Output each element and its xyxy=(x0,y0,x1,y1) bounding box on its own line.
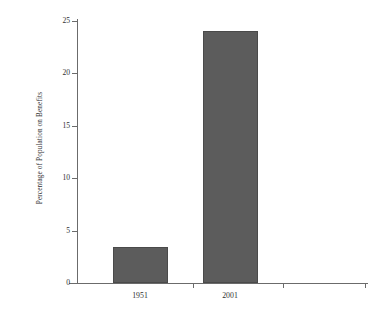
y-tick-label-text: 5 xyxy=(30,227,70,235)
bar-1951 xyxy=(113,247,168,283)
x-tick-label-2001: 2001 xyxy=(200,291,260,301)
x-tick-mark xyxy=(193,284,194,288)
y-tick-label: 10 xyxy=(26,174,70,182)
y-tick-mark xyxy=(72,283,78,284)
y-tick-label: 15 xyxy=(26,122,70,130)
y-tick-label: 5 xyxy=(26,227,70,235)
y-tick-label-text: 25 xyxy=(30,17,70,25)
x-tick-mark xyxy=(283,284,284,288)
bar-2001 xyxy=(203,31,258,283)
y-tick-label: 20 xyxy=(26,69,70,77)
x-axis-line xyxy=(69,283,368,284)
y-tick-label-text: 0 xyxy=(30,279,70,287)
x-axis-end-tick xyxy=(365,284,366,288)
y-tick-label-text: 15 xyxy=(30,122,70,130)
bar-chart: Percentage of Population on Benefits 051… xyxy=(0,0,382,319)
y-tick-label: 0 xyxy=(26,279,70,287)
x-tick-label-1951: 1951 xyxy=(110,291,170,301)
plot-area xyxy=(77,21,368,283)
y-axis-title: Percentage of Population on Benefits xyxy=(33,48,47,248)
y-tick-label: 25 xyxy=(26,17,70,25)
y-tick-label-text: 10 xyxy=(30,174,70,182)
y-tick-label-text: 20 xyxy=(30,69,70,77)
